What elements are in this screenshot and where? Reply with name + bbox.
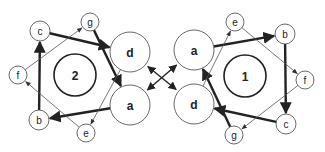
graph-diagram: 2cgdaebf1aebfcgd (0, 0, 325, 152)
node-2-g: g (81, 13, 99, 31)
node-2-e: e (77, 124, 95, 142)
node-label: f (304, 75, 307, 86)
edge-1-b-c (285, 44, 286, 113)
node-label: f (17, 70, 20, 81)
node-1-b: b (275, 24, 295, 44)
node-2-b: b (29, 110, 49, 130)
node-1-e: e (226, 13, 244, 31)
node-label: e (232, 17, 238, 28)
hub-node-1: 1 (224, 55, 266, 97)
node-label: b (36, 115, 42, 126)
edge-2-b-c (39, 42, 40, 110)
edge-1-a-b (214, 36, 274, 47)
hub-node-2: 2 (54, 54, 96, 96)
hub-label: 2 (72, 69, 79, 83)
node-label: g (231, 130, 237, 141)
node-label: d (190, 98, 197, 112)
hub-label: 1 (242, 70, 249, 84)
node-label: d (126, 46, 133, 60)
node-1-f: f (296, 71, 314, 89)
node-label: b (282, 29, 288, 40)
node-label: e (83, 128, 89, 139)
node-label: c (38, 26, 43, 37)
node-label: g (87, 17, 93, 28)
node-label: c (284, 119, 289, 130)
node-1-g: g (225, 126, 243, 144)
node-2-d: d (110, 32, 150, 72)
node-1-a: a (174, 30, 214, 70)
node-2-c: c (30, 21, 50, 41)
node-1-c: c (276, 114, 296, 134)
node-2-f: f (9, 66, 27, 84)
node-label: a (191, 44, 198, 58)
cross-links-layer (147, 65, 176, 90)
node-label: a (127, 99, 134, 113)
node-2-a: a (110, 85, 150, 125)
node-1-d: d (174, 84, 214, 124)
